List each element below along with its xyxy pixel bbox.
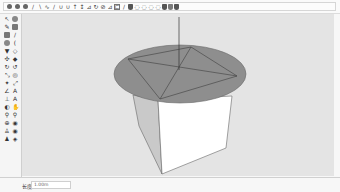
- zoom-window-tool-icon[interactable]: ⚲: [12, 112, 18, 118]
- line-icon[interactable]: /: [30, 4, 36, 10]
- select-icon[interactable]: [7, 4, 12, 9]
- section-plane-icon[interactable]: [128, 4, 133, 10]
- offset-tool-icon[interactable]: ◎: [12, 72, 18, 78]
- zoom-extents-tool-icon[interactable]: ⊕: [4, 120, 10, 126]
- look-around-tool-icon[interactable]: ◉: [12, 128, 18, 134]
- extension-warehouse-icon[interactable]: [168, 4, 173, 10]
- text-icon[interactable]: ⊏: [114, 4, 120, 10]
- section-tool-icon[interactable]: ◈: [12, 136, 18, 142]
- scale-tool-icon[interactable]: ⤡: [4, 72, 10, 78]
- line-tool-icon[interactable]: /: [12, 32, 18, 38]
- dimension-icon[interactable]: /: [121, 4, 127, 10]
- pan-tool-icon[interactable]: ✋: [12, 104, 18, 110]
- lasso-tool-icon[interactable]: ✎: [4, 24, 10, 30]
- freehand-tool-icon[interactable]: ◇: [12, 48, 18, 54]
- circle-tool-icon[interactable]: [4, 40, 10, 46]
- measurement-input[interactable]: 1.00m: [31, 181, 71, 189]
- arc-icon[interactable]: ∖: [37, 4, 43, 10]
- 3d-text-tool-icon[interactable]: A: [12, 96, 18, 102]
- rotate-tool-icon[interactable]: ↻: [4, 64, 10, 70]
- zoom-extents-icon[interactable]: ◌: [155, 4, 161, 10]
- paint-bucket-icon[interactable]: [23, 4, 28, 9]
- scale-icon[interactable]: ⊿: [86, 4, 92, 10]
- layout-icon[interactable]: [174, 4, 179, 10]
- orbit-tool-icon[interactable]: ◐: [4, 104, 10, 110]
- arc-tool-icon[interactable]: (: [12, 40, 18, 46]
- tape-tool-icon[interactable]: ✦: [4, 80, 10, 86]
- tool-palette: ↖✎/(▼◇✣◆↻↺⤡◎✦⤢∠A⊥A◐✋⚲⚲⊕◉♙◉♟◈: [0, 14, 22, 177]
- protractor-icon[interactable]: ⊿: [107, 4, 113, 10]
- offset-icon[interactable]: ∪: [65, 4, 71, 10]
- zoom-tool-icon[interactable]: ⚲: [4, 112, 10, 118]
- previous-view-tool-icon[interactable]: ◉: [12, 120, 18, 126]
- main-toolbar: /∖∿/∪∪↑↕⊿↻⊘⊿⊏/◌◌◌◌: [0, 0, 340, 14]
- box-left-face[interactable]: [133, 95, 162, 174]
- walk-tool-icon[interactable]: ♟: [4, 136, 10, 142]
- tool-grid: ↖✎/(▼◇✣◆↻↺⤡◎✦⤢∠A⊥A◐✋⚲⚲⊕◉♙◉♟◈: [4, 16, 19, 142]
- axes-tool-icon[interactable]: ⊥: [4, 96, 10, 102]
- freehand-icon[interactable]: ∿: [44, 4, 50, 10]
- push-pull-icon[interactable]: ∪: [58, 4, 64, 10]
- rotate-icon[interactable]: ↕: [79, 4, 85, 10]
- move-icon[interactable]: ↑: [72, 4, 78, 10]
- zoom-icon[interactable]: ◌: [148, 4, 154, 10]
- 3d-scene[interactable]: [22, 14, 334, 176]
- follow-me-icon[interactable]: ↻: [93, 4, 99, 10]
- orbit-icon[interactable]: ◌: [134, 4, 140, 10]
- toolbar-strip: /∖∿/∪∪↑↕⊿↻⊘⊿⊏/◌◌◌◌: [3, 2, 336, 11]
- dimension-tool-icon[interactable]: ⤢: [12, 80, 18, 86]
- move-tool-icon[interactable]: ✣: [4, 56, 10, 62]
- paint-tool-icon[interactable]: [12, 24, 18, 30]
- warehouse-icon[interactable]: [162, 4, 167, 10]
- position-camera-tool-icon[interactable]: ♙: [4, 128, 10, 134]
- select-tool-icon[interactable]: ↖: [4, 16, 10, 22]
- follow-me-tool-icon[interactable]: ↺: [12, 64, 18, 70]
- component-icon[interactable]: [15, 4, 20, 9]
- polygon-tool-icon[interactable]: ▼: [4, 48, 10, 54]
- rectangle-tool-icon[interactable]: [4, 32, 10, 38]
- tape-measure-icon[interactable]: ⊘: [100, 4, 106, 10]
- protractor-tool-icon[interactable]: ∠: [4, 88, 10, 94]
- status-bar: 长度 1.00m: [0, 177, 340, 192]
- box-front-face[interactable]: [158, 96, 232, 174]
- pencil-icon[interactable]: /: [51, 4, 57, 10]
- drawing-viewport[interactable]: [22, 14, 334, 176]
- push-pull-tool-icon[interactable]: ◆: [12, 56, 18, 62]
- eraser-tool-icon[interactable]: [12, 16, 18, 22]
- pan-icon[interactable]: ◌: [141, 4, 147, 10]
- text-tool-icon[interactable]: A: [12, 88, 18, 94]
